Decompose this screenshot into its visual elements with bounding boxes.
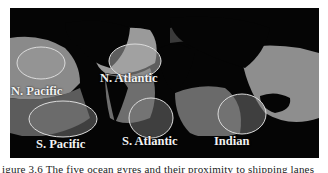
world-shipping-map: N. Pacific N. Atlantic S. Pacific S. Atl… (10, 8, 319, 158)
gyre-label-south-pacific: S. Pacific (36, 137, 85, 152)
gyre-label-indian: Indian (214, 134, 249, 149)
gyre-label-north-pacific: N. Pacific (11, 84, 62, 99)
gyre-label-north-atlantic: N. Atlantic (100, 71, 158, 86)
figure-caption: igure 3.6 The five ocean gyres and their… (2, 163, 314, 173)
gyre-label-south-atlantic: S. Atlantic (122, 134, 178, 149)
